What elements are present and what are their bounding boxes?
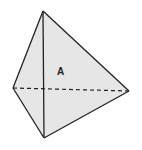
face-label: A bbox=[57, 66, 64, 77]
tetrahedron-diagram: A bbox=[0, 0, 142, 150]
tetrahedron-figure: A bbox=[0, 0, 142, 150]
